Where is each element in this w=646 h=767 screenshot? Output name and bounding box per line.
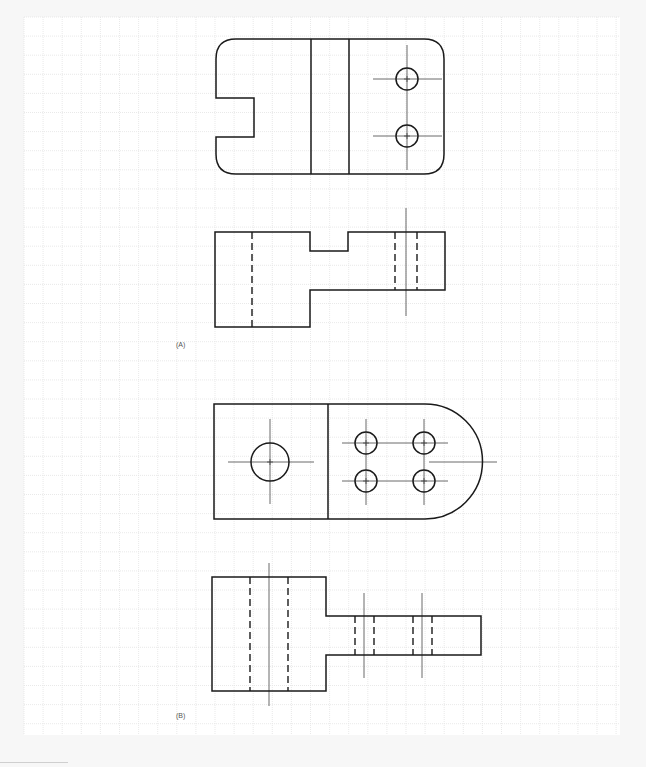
orthographic-drawing (0, 0, 646, 767)
grid-lines (24, 17, 620, 735)
view-b-front (212, 563, 481, 706)
footer-rule (0, 762, 68, 763)
drawing-sheet: (A) (B) (0, 0, 646, 767)
figure-label-b: (B) (176, 712, 185, 719)
view-b-top (214, 404, 497, 519)
part-outline (212, 577, 481, 691)
figure-label-a: (A) (176, 341, 185, 348)
part-outline (214, 404, 482, 519)
